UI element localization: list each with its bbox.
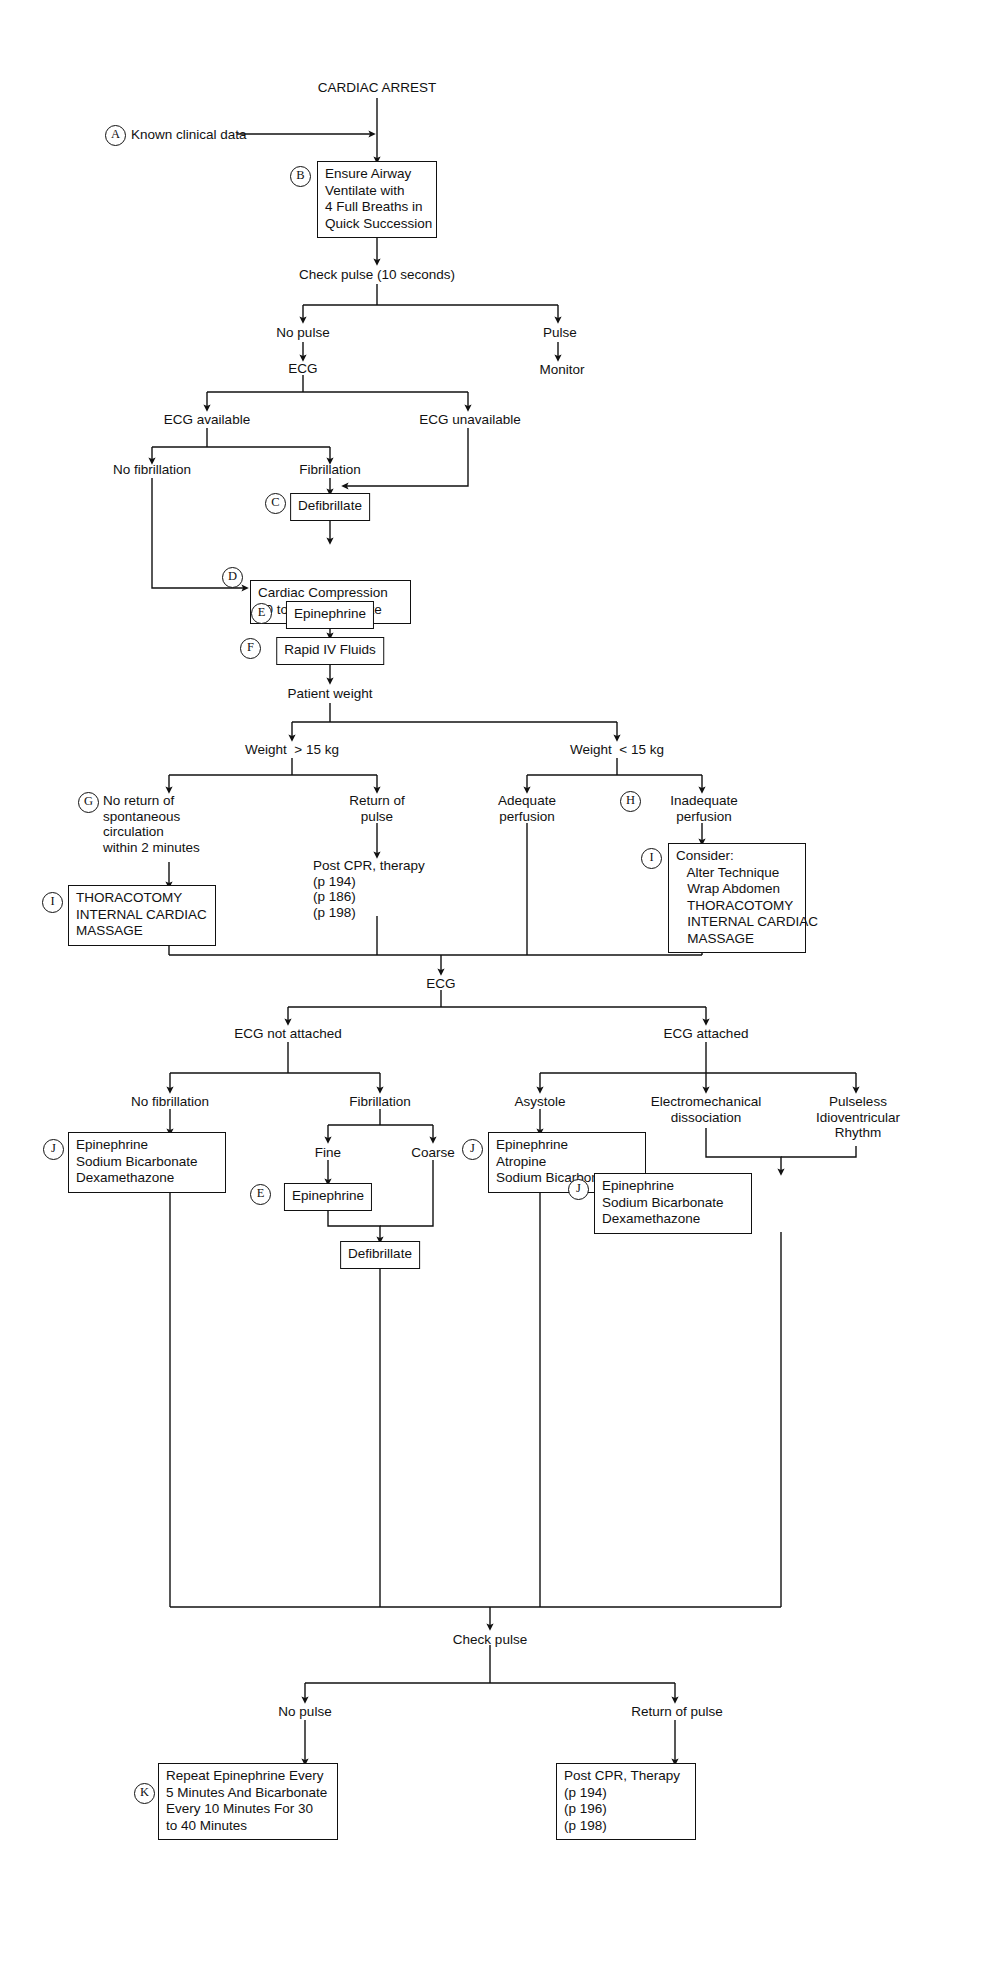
label-no-fibrillation-1: No fibrillation (113, 462, 191, 478)
label-ecg-attached: ECG attached (664, 1026, 749, 1042)
box-ensure-airway: Ensure Airway Ventilate with 4 Full Brea… (317, 161, 437, 238)
box-rapid-iv-fluids: Rapid IV Fluids (276, 637, 384, 665)
label-coarse: Coarse (411, 1145, 455, 1161)
box-epi-sodbic-dex-left: Epinephrine Sodium Bicarbonate Dexametha… (68, 1132, 226, 1193)
marker-h-icon: H (620, 791, 641, 812)
label-pulse: Pulse (543, 325, 577, 341)
root-label: CARDIAC ARREST (318, 80, 437, 96)
label-weight-over-15: Weight > 15 kg (245, 742, 339, 758)
box-epi-sodbic-dex-right: Epinephrine Sodium Bicarbonate Dexametha… (594, 1173, 752, 1234)
label-ecg-2: ECG (426, 976, 455, 992)
flowchart-canvas: CARDIAC ARREST A Known clinical data B E… (0, 0, 990, 1963)
label-no-pulse-1: No pulse (276, 325, 329, 341)
flowchart-connectors (0, 0, 990, 1963)
label-ecg-not-attached: ECG not attached (234, 1026, 341, 1042)
label-pulseless-idioventricular-rhythm: Pulseless Idioventricular Rhythm (816, 1094, 900, 1141)
marker-e2-icon: E (250, 1184, 271, 1205)
label-no-return-spontaneous: No return of spontaneous circulation wit… (103, 793, 200, 855)
label-weight-under-15: Weight < 15 kg (570, 742, 664, 758)
marker-f-icon: F (240, 638, 261, 659)
marker-g-icon: G (78, 792, 99, 813)
label-check-pulse-10s: Check pulse (10 seconds) (299, 267, 455, 283)
marker-j-left-icon: J (43, 1139, 64, 1160)
label-known-clinical-data: Known clinical data (131, 127, 247, 143)
label-fibrillation-2: Fibrillation (349, 1094, 411, 1110)
box-defibrillate-1: Defibrillate (290, 493, 370, 521)
marker-j-right-icon: J (568, 1179, 589, 1200)
marker-e-icon: E (251, 603, 272, 624)
label-ecg-available: ECG available (164, 412, 250, 428)
box-defibrillate-2: Defibrillate (340, 1241, 420, 1269)
marker-d-icon: D (222, 567, 243, 588)
box-epinephrine-2: Epinephrine (284, 1183, 372, 1211)
label-fibrillation-1: Fibrillation (299, 462, 361, 478)
box-consider: Consider: Alter Technique Wrap Abdomen T… (668, 843, 806, 953)
label-ecg-1: ECG (288, 361, 317, 377)
box-epinephrine-1: Epinephrine (286, 601, 374, 629)
box-post-cpr-therapy-2: Post CPR, Therapy (p 194) (p 196) (p 198… (556, 1763, 696, 1840)
marker-j-mid-icon: J (462, 1139, 483, 1160)
marker-c-icon: C (265, 493, 286, 514)
box-thoracotomy-left: THORACOTOMY INTERNAL CARDIAC MASSAGE (68, 885, 216, 946)
label-asystole: Asystole (514, 1094, 565, 1110)
label-fine: Fine (315, 1145, 341, 1161)
label-post-cpr-therapy-1: Post CPR, therapy (p 194) (p 186) (p 198… (313, 858, 425, 920)
marker-b-icon: B (290, 166, 311, 187)
label-patient-weight: Patient weight (288, 686, 373, 702)
label-ecg-unavailable: ECG unavailable (419, 412, 520, 428)
label-electromechanical-dissociation: Electromechanical dissociation (651, 1094, 761, 1125)
marker-i-left-icon: I (42, 892, 63, 913)
label-check-pulse-2: Check pulse (453, 1632, 527, 1648)
marker-a-icon: A (105, 125, 126, 146)
label-monitor: Monitor (539, 362, 584, 378)
label-no-fibrillation-2: No fibrillation (131, 1094, 209, 1110)
label-return-of-pulse-2: Return of pulse (631, 1704, 723, 1720)
label-no-pulse-2: No pulse (278, 1704, 331, 1720)
label-return-of-pulse-1: Return of pulse (349, 793, 405, 824)
label-adequate-perfusion: Adequate perfusion (498, 793, 556, 824)
marker-k-icon: K (134, 1783, 155, 1804)
label-inadequate-perfusion: Inadequate perfusion (670, 793, 738, 824)
marker-i-right-icon: I (641, 848, 662, 869)
box-repeat-epinephrine: Repeat Epinephrine Every 5 Minutes And B… (158, 1763, 338, 1840)
